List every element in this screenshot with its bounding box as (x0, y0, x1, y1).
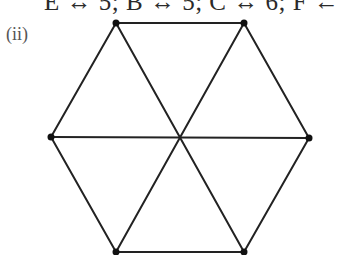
graph-edge (244, 23, 309, 138)
graph-edge (244, 138, 309, 252)
graph-edge (51, 137, 309, 138)
hexagon-graph (0, 0, 364, 255)
graph-vertex (306, 135, 313, 142)
graph-edge (51, 23, 116, 137)
graph-vertex (241, 20, 248, 27)
graph-vertex (48, 134, 55, 141)
graph-edge (51, 137, 116, 252)
graph-vertex (113, 20, 120, 27)
